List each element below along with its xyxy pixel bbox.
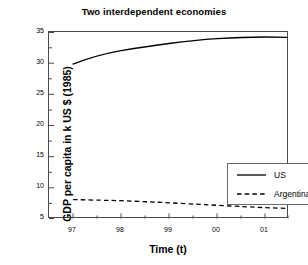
y-axis-title: GDP per capita in k US $ (1985) bbox=[61, 44, 73, 244]
series-line-us bbox=[73, 37, 287, 64]
x-tick-label-99: 99 bbox=[156, 226, 180, 234]
x-tick-label-01: 01 bbox=[252, 226, 276, 234]
x-tick-label-98: 98 bbox=[108, 226, 132, 234]
y-tick-label-35: 35 bbox=[18, 27, 44, 35]
legend-item-us: US bbox=[228, 166, 308, 184]
y-tick-label-5: 5 bbox=[18, 213, 44, 221]
legend-swatch-dashed-line-icon bbox=[236, 188, 267, 200]
x-tick-label-00: 00 bbox=[204, 226, 228, 234]
y-tick-label-20: 20 bbox=[18, 120, 44, 128]
legend-label-argentina: Argentina bbox=[274, 189, 308, 199]
x-axis-ticks bbox=[73, 214, 289, 219]
plot-area: US Argentina GDP per capita in k US $ (1… bbox=[48, 31, 288, 218]
y-tick-label-10: 10 bbox=[18, 182, 44, 190]
x-axis-title: Time (t) bbox=[48, 243, 288, 255]
legend-swatch-solid-line-icon bbox=[236, 169, 267, 181]
chart-figure: Two interdependent economies 35 30 25 20… bbox=[0, 0, 308, 265]
legend: US Argentina bbox=[227, 163, 308, 205]
legend-label-us: US bbox=[274, 170, 286, 180]
y-tick-label-30: 30 bbox=[18, 58, 44, 66]
y-tick-label-25: 25 bbox=[18, 89, 44, 97]
y-axis-ticks bbox=[49, 33, 54, 219]
chart-title: Two interdependent economies bbox=[0, 6, 308, 17]
legend-item-argentina: Argentina bbox=[228, 185, 308, 203]
y-tick-label-15: 15 bbox=[18, 151, 44, 159]
